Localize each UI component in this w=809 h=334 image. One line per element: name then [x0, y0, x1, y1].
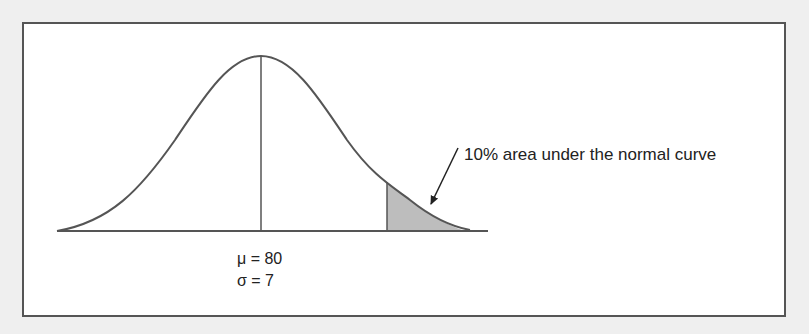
shaded-tail-area [387, 182, 462, 230]
mean-label: μ = 80 [237, 250, 282, 267]
annotation-arrow [431, 148, 458, 204]
normal-curve-chart: 10% area under the normal curve μ = 80 σ… [0, 0, 809, 334]
annotation-label: 10% area under the normal curve [464, 145, 716, 164]
std-dev-label: σ = 7 [237, 272, 274, 289]
